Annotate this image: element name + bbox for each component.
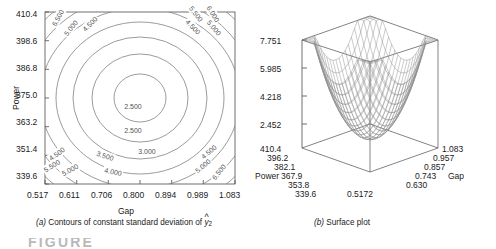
contour-label: 3.500 (94, 149, 116, 164)
svg-text:3.000: 3.000 (138, 148, 156, 155)
surface-mesh-line (302, 16, 370, 60)
contour-label: 4.500 (80, 14, 101, 35)
surface-mesh-line (330, 55, 398, 135)
surface-mesh-line (342, 55, 410, 135)
surface-mesh-line (370, 40, 438, 84)
contour-label: 6.500 (49, 7, 66, 29)
contour-label: 4.000 (102, 165, 123, 178)
contour-panel: 410.4 398.6 386.8 375.0 363.2 351.4 339.… (0, 0, 252, 249)
surface-caption-letter: (b) (314, 218, 324, 227)
contour-label: 5.000 (61, 17, 80, 38)
surface-mesh-line (333, 60, 401, 140)
svg-text:2.500: 2.500 (124, 127, 142, 134)
contour-caption-text: Contours of constant standard deviation … (48, 218, 202, 227)
hat-accent-icon: ^ (204, 212, 208, 222)
contour-label: 6.500 (209, 161, 228, 182)
contour-caption-symbol-box: ^ y (204, 218, 208, 227)
surface-mesh-line (302, 40, 370, 84)
surface-panel: 7.751 5.985 4.218 2.452 410.4 396.2 382.… (252, 0, 496, 249)
contour-caption: (a) Contours of constant standard deviat… (36, 218, 212, 227)
surface-mesh-line (370, 16, 438, 60)
contour-inline-labels: 6.5005.0004.5005.5006.0004.5005.0002.500… (0, 0, 252, 249)
contour-caption-letter: (a) (36, 218, 46, 227)
surface-caption-text: Surface plot (326, 218, 370, 227)
figure-heading-strip: FIGURE (28, 238, 228, 249)
contour-label: 2.500 (123, 102, 143, 111)
surface-plot-area (252, 0, 496, 210)
surface-caption: (b) Surface plot (314, 218, 370, 227)
contour-label: 3.000 (137, 147, 157, 156)
svg-text:2.500: 2.500 (124, 103, 142, 110)
surface-mesh-line (339, 60, 407, 140)
contour-caption-symbol-sub: 2 (209, 220, 213, 227)
surface-z-axis (302, 40, 307, 148)
figure-container: 410.4 398.6 386.8 375.0 363.2 351.4 339.… (0, 0, 496, 249)
figure-heading-text: FIGURE (28, 238, 94, 249)
contour-label: 2.500 (123, 126, 143, 135)
